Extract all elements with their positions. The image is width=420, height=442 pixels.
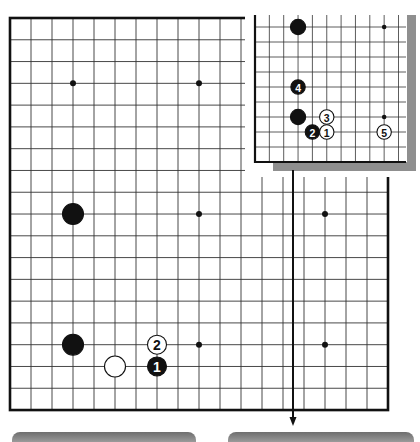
caption-bar-1 [12,432,196,442]
black-stone [290,109,305,124]
white-stone [105,356,126,377]
down-arrow-icon [290,170,297,426]
star-point [196,80,202,86]
star-point [322,211,328,217]
black-stone [63,204,84,225]
black-stone-4: 4 [291,80,305,94]
star-point [322,342,328,348]
move-number: 5 [381,127,387,139]
move-number: 3 [324,112,330,124]
black-stone [290,19,305,34]
white-stone-5: 5 [377,125,391,139]
move-number: 1 [324,127,330,139]
move-number: 2 [153,337,161,353]
black-stone-1: 1 [148,357,167,376]
move-number: 1 [153,359,161,375]
move-number: 4 [295,82,301,94]
white-stone-2: 2 [148,335,167,354]
black-stone [63,334,84,355]
star-point [382,25,387,30]
inset-shadow [407,15,416,171]
white-stone-1: 1 [320,125,334,139]
inset-board: 42315 [254,15,416,171]
white-stone-3: 3 [320,110,334,124]
black-stone-2: 2 [305,125,319,139]
star-point [196,342,202,348]
move-number: 2 [309,127,315,139]
star-point [196,211,202,217]
star-point [70,80,76,86]
caption-bar-2 [228,432,414,442]
star-point [382,115,387,120]
